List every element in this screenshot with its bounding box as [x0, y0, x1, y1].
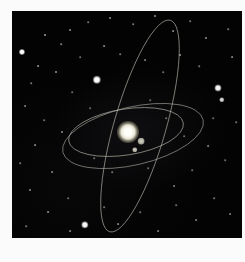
starfield-canvas[interactable]	[12, 11, 242, 238]
planet-marker	[132, 147, 137, 152]
screenshot-stage	[0, 0, 245, 262]
celestial-body-layer	[12, 11, 242, 238]
central-star	[117, 121, 139, 143]
planet-marker	[138, 138, 145, 145]
